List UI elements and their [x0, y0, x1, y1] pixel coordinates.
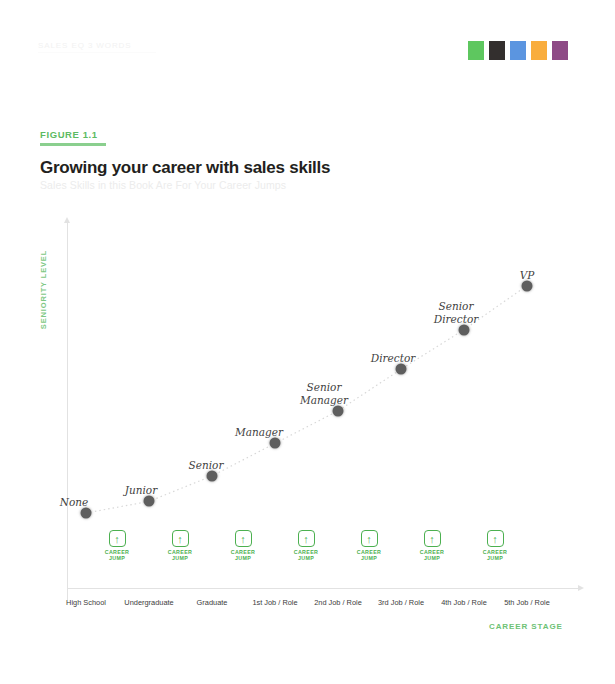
figure-label-underline: [40, 143, 106, 146]
career-jump-box: ↑: [424, 530, 441, 547]
figure-label: FIGURE 1.1: [40, 129, 98, 140]
y-axis-arrow-icon: [64, 217, 70, 223]
data-point: [459, 324, 470, 335]
point-label: Senior Manager: [300, 381, 348, 406]
page-title: Growing your career with sales skills: [40, 158, 460, 178]
x-tick-label: 4th Job / Role: [441, 598, 487, 607]
career-jump-box: ↑: [298, 530, 315, 547]
career-jump-marker: ↑CAREER JUMP: [342, 530, 396, 562]
career-jump-box: ↑: [172, 530, 189, 547]
x-tick-label: 3rd Job / Role: [378, 598, 424, 607]
point-label: Director: [371, 352, 415, 365]
swatch-purple: [552, 41, 568, 60]
arrow-up-icon: ↑: [240, 533, 246, 544]
x-axis-line: [67, 588, 579, 589]
career-jump-label: CAREER JUMP: [468, 549, 522, 562]
point-label: Manager: [235, 426, 283, 439]
x-tick-label: Graduate: [197, 598, 228, 607]
career-jump-label: CAREER JUMP: [90, 549, 144, 562]
career-jump-box: ↑: [109, 530, 126, 547]
swatch-black: [489, 41, 505, 60]
data-point: [144, 496, 155, 507]
swatch-green: [468, 41, 484, 60]
x-axis-title: CAREER STAGE: [489, 622, 563, 631]
page-top-bar: SALES EQ 3 WORDS: [0, 0, 615, 95]
arrow-up-icon: ↑: [429, 533, 435, 544]
arrow-up-icon: ↑: [114, 533, 120, 544]
swatch-blue: [510, 41, 526, 60]
figure-heading-block: FIGURE 1.1 Growing your career with sale…: [40, 124, 460, 191]
data-point: [270, 438, 281, 449]
career-jump-label: CAREER JUMP: [405, 549, 459, 562]
career-jump-box: ↑: [235, 530, 252, 547]
swatch-orange: [531, 41, 547, 60]
plot-area: SENIORITY LEVEL CAREER STAGE NoneJuniorS…: [0, 210, 615, 650]
color-swatch-row: [468, 41, 568, 60]
x-tick-label: Undergraduate: [124, 598, 173, 607]
point-label: Senior: [189, 459, 224, 472]
data-point: [81, 508, 92, 519]
page-subtitle: Sales Skills in this Book Are For Your C…: [40, 179, 460, 191]
data-point: [396, 364, 407, 375]
y-axis-line: [67, 222, 68, 600]
career-jump-label: CAREER JUMP: [342, 549, 396, 562]
career-jump-label: CAREER JUMP: [279, 549, 333, 562]
data-point: [333, 405, 344, 416]
x-tick-label: 2nd Job / Role: [314, 598, 362, 607]
career-jump-marker: ↑CAREER JUMP: [153, 530, 207, 562]
data-point: [522, 280, 533, 291]
career-jump-label: CAREER JUMP: [216, 549, 270, 562]
career-growth-chart: SENIORITY LEVEL CAREER STAGE NoneJuniorS…: [0, 210, 615, 650]
career-jump-marker: ↑CAREER JUMP: [279, 530, 333, 562]
y-axis-title: SENIORITY LEVEL: [39, 235, 48, 345]
x-tick-label: 1st Job / Role: [252, 598, 297, 607]
x-tick-label: 5th Job / Role: [504, 598, 550, 607]
running-head: SALES EQ 3 WORDS: [38, 41, 132, 50]
career-jump-marker: ↑CAREER JUMP: [468, 530, 522, 562]
career-jump-marker: ↑CAREER JUMP: [90, 530, 144, 562]
career-jump-marker: ↑CAREER JUMP: [216, 530, 270, 562]
career-jump-box: ↑: [487, 530, 504, 547]
arrow-up-icon: ↑: [366, 533, 372, 544]
x-tick-label: High School: [66, 598, 106, 607]
career-jump-marker: ↑CAREER JUMP: [405, 530, 459, 562]
point-label: VP: [520, 269, 535, 282]
career-jump-box: ↑: [361, 530, 378, 547]
point-label: Junior: [125, 484, 157, 497]
point-label: None: [60, 496, 89, 509]
data-point: [207, 470, 218, 481]
header-rule: [38, 52, 156, 53]
point-label: Senior Director: [434, 300, 478, 325]
arrow-up-icon: ↑: [177, 533, 183, 544]
x-axis-arrow-icon: [578, 585, 584, 591]
arrow-up-icon: ↑: [303, 533, 309, 544]
arrow-up-icon: ↑: [492, 533, 498, 544]
career-jump-label: CAREER JUMP: [153, 549, 207, 562]
